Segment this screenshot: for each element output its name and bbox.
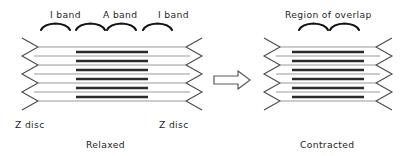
sarcomere-diagram: I band A band I band <box>0 0 417 156</box>
z-disc-label-left: Z disc <box>15 119 45 130</box>
panel-caption-contracted: Contracted <box>300 139 355 150</box>
band-label-i-band-right: I band <box>158 9 189 20</box>
band-label-i-band-left: I band <box>50 9 81 20</box>
band-label-a-band: A band <box>103 9 137 20</box>
band-label-region-of-overlap: Region of overlap <box>285 9 372 20</box>
z-disc-label-right: Z disc <box>159 119 189 130</box>
panel-caption-relaxed: Relaxed <box>86 139 125 150</box>
